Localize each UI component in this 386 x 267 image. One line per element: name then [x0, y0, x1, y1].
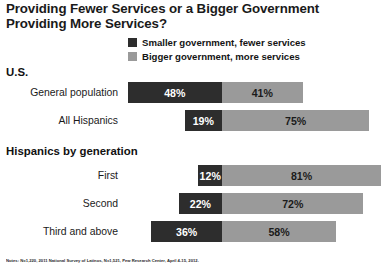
legend-item-bigger: Bigger government, more services: [128, 50, 306, 62]
bar-segment-smaller-government: 36%: [151, 221, 222, 242]
title-line-1: Providing Fewer Services or a Bigger Gov…: [6, 1, 319, 16]
bar-segment-bigger-government: 72%: [222, 193, 363, 214]
row-bars: 12%81%: [0, 165, 386, 186]
bar-segment-bigger-government: 41%: [222, 82, 303, 103]
page-title: Providing Fewer Services or a Bigger Gov…: [6, 2, 376, 31]
section-heading-generation: Hispanics by generation: [6, 145, 138, 157]
section-heading-us: U.S.: [6, 66, 28, 78]
row-bars: 48%41%: [0, 82, 386, 103]
bar-segment-bigger-government: 81%: [222, 165, 381, 186]
bar-segment-smaller-government: 22%: [179, 193, 222, 214]
chart-legend: Smaller government, fewer services Bigge…: [128, 36, 306, 64]
bar-segment-smaller-government: 19%: [185, 110, 222, 131]
chart-figure: Providing Fewer Services or a Bigger Gov…: [0, 0, 386, 267]
chart-row: All Hispanics19%75%: [0, 110, 386, 131]
chart-row: Second22%72%: [0, 193, 386, 214]
legend-swatch-icon-smaller: [128, 38, 137, 47]
legend-label-smaller: Smaller government, fewer services: [142, 37, 306, 48]
chart-row: General population48%41%: [0, 82, 386, 103]
bar-segment-bigger-government: 58%: [222, 221, 336, 242]
bar-segment-bigger-government: 75%: [222, 110, 369, 131]
bar-segment-smaller-government: 48%: [128, 82, 222, 103]
chart-row: Third and above36%58%: [0, 221, 386, 242]
title-line-2: Providing More Services?: [6, 17, 376, 32]
chart-row: First12%81%: [0, 165, 386, 186]
legend-item-smaller: Smaller government, fewer services: [128, 36, 306, 48]
chart-footnote: Notes: N=1,220, 2011 National Survey of …: [6, 258, 380, 263]
legend-swatch-icon-bigger: [128, 52, 137, 61]
bar-segment-smaller-government: 12%: [198, 165, 222, 186]
row-bars: 19%75%: [0, 110, 386, 131]
row-bars: 22%72%: [0, 193, 386, 214]
row-bars: 36%58%: [0, 221, 386, 242]
legend-label-bigger: Bigger government, more services: [142, 51, 300, 62]
